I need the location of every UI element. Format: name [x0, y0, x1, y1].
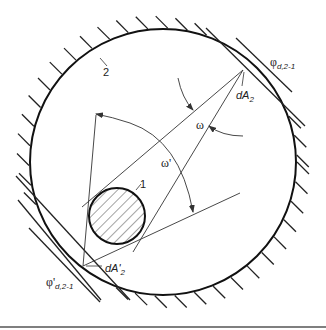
hatch-tick [155, 296, 167, 308]
hatch-tick [136, 17, 148, 29]
omega-prime-arc-start [96, 114, 130, 123]
hatch-tick [19, 173, 31, 185]
label-omega: ω [196, 118, 204, 132]
hatch-tick [98, 27, 110, 39]
omega-arrow-left [178, 78, 193, 110]
hatch-tick [156, 16, 168, 28]
body-surface-1 [89, 188, 145, 244]
label-phi-prime: φ'd,2-1 [46, 275, 73, 291]
hatch-tick [274, 237, 286, 249]
hatch-tick [18, 134, 30, 146]
hatch-tick [194, 292, 206, 304]
hatch-tick [284, 220, 296, 232]
hatch-tick [294, 135, 306, 147]
hatch-tick [38, 78, 50, 90]
hatch-tick [291, 201, 303, 213]
label-surface-1: 1 [140, 178, 146, 190]
label-surface-2: 2 [103, 66, 109, 78]
hatch-tick [135, 293, 147, 305]
hatch-tick [64, 48, 76, 60]
hatch-tick [175, 296, 187, 308]
hatch-tick [262, 253, 274, 265]
hatch-tick [175, 18, 187, 30]
hatch-tick [297, 162, 309, 174]
hatch-tick [297, 155, 309, 167]
label-phi: φd,2-1 [270, 55, 295, 71]
radiation-enclosure-diagram: 2 1 dA2 dA'2 ω ω' φd,2-1 φ'd,2-1 [0, 0, 326, 330]
hatch-tick [29, 96, 41, 108]
label-dA2-prime: dA'2 [105, 262, 126, 277]
hatch-tick [50, 62, 62, 74]
hatch-tick [22, 114, 34, 126]
label-omega-prime: ω' [161, 156, 171, 170]
hatch-tick [17, 154, 29, 166]
leader-dA2 [242, 72, 244, 86]
tangent-lines-dA2 [206, 28, 305, 126]
label-dA2: dA2 [236, 89, 254, 104]
hatch-tick [231, 278, 243, 290]
hatch-tick [80, 36, 92, 48]
hatch-tick [247, 266, 259, 278]
hatch-tick [213, 286, 225, 298]
leader-2 [100, 58, 107, 66]
omega-arrow-right [209, 126, 243, 136]
hatch-tick [296, 182, 308, 194]
hatch-tick [116, 21, 128, 33]
